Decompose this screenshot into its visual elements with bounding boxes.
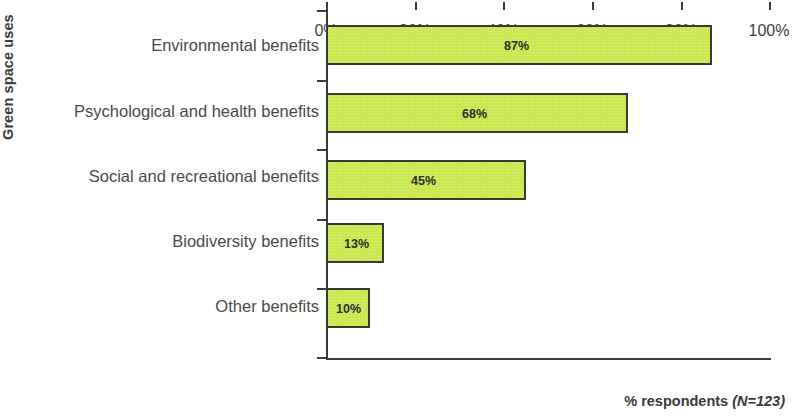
x-axis-tick	[503, 2, 505, 10]
bar-value-label-social-and-recreational-benefits: 45%	[411, 175, 436, 188]
category-label-psychological-and-health-benefits: Psychological and health benefits	[0, 103, 319, 120]
category-label-environmental-benefits: Environmental benefits	[0, 37, 319, 54]
bar-value-label-environmental-benefits: 87%	[504, 40, 529, 53]
bar-chart: Green space uses Environmental benefits …	[0, 0, 793, 419]
x-axis-tick	[592, 2, 594, 10]
x-axis-tick	[415, 2, 417, 10]
y-axis-tick	[317, 219, 326, 221]
y-axis-tick	[317, 80, 326, 82]
x-axis-tick	[769, 2, 771, 10]
bar-value-label-biodiversity-benefits: 13%	[344, 238, 369, 251]
y-axis-tick	[317, 357, 326, 359]
y-axis-tick	[317, 149, 326, 151]
y-axis-tick	[317, 10, 326, 12]
category-label-biodiversity-benefits: Biodiversity benefits	[0, 233, 319, 250]
x-axis-tick	[681, 2, 683, 10]
bar-value-label-psychological-and-health-benefits: 68%	[462, 108, 487, 121]
bar-value-label-other-benefits: 10%	[336, 303, 361, 316]
x-axis-title-sample-size: (N=123)	[732, 393, 785, 409]
x-axis-tick-label: 100%	[729, 22, 793, 40]
x-axis-line	[326, 358, 771, 360]
y-axis-title-label: Green space uses	[0, 0, 16, 144]
plot-area: 0% 20% 40% 60% 80% 100% 87% 68% 45% 13% …	[326, 10, 770, 358]
category-label-social-and-recreational-benefits: Social and recreational benefits	[0, 168, 319, 185]
x-axis-title: % respondents (N=123)	[540, 393, 785, 409]
y-axis-title: Green space uses	[0, 0, 24, 144]
y-axis-tick	[317, 288, 326, 290]
x-axis-title-main: % respondents	[624, 393, 728, 409]
x-axis-tick	[326, 2, 328, 10]
category-label-other-benefits: Other benefits	[0, 298, 319, 315]
